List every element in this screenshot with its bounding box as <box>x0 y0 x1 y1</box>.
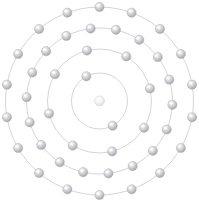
electron-shell-1-2 <box>108 121 117 130</box>
electron-shell-3-8 <box>55 158 64 167</box>
electron-shell-2-5 <box>107 147 116 156</box>
electron-shell-3-10 <box>104 169 113 178</box>
electron-shell-3-18 <box>111 25 120 34</box>
electron-shell-4-11 <box>127 185 136 194</box>
electron-shell-4-9 <box>63 185 72 194</box>
electron-shell-3-4 <box>28 68 37 77</box>
electron-shell-3-2 <box>62 31 71 40</box>
electron-shell-3-5 <box>22 93 31 102</box>
electron-shell-3-1 <box>86 24 95 33</box>
electron-shell-3-17 <box>135 35 144 44</box>
electron-shell-3-6 <box>25 118 34 127</box>
electron-shell-4-18 <box>127 8 136 17</box>
electron-shell-2-3 <box>44 109 53 118</box>
electron-shell-4-6 <box>2 113 11 122</box>
nucleus-sphere <box>95 96 105 106</box>
electron-shell-4-7 <box>13 143 22 152</box>
electron-shell-4-4 <box>13 49 22 58</box>
electron-shell-2-2 <box>50 70 59 79</box>
electron-shell-3-9 <box>78 168 87 177</box>
electron-shell-3-11 <box>128 161 137 170</box>
atom-svg-canvas <box>0 0 199 206</box>
electron-shell-4-2 <box>63 8 72 17</box>
electron-shell-3-15 <box>165 75 174 84</box>
electron-shell-4-3 <box>34 24 43 33</box>
electron-shell-4-8 <box>34 168 43 177</box>
electron-shell-3-3 <box>42 47 51 56</box>
electron-shell-4-10 <box>95 190 104 199</box>
electron-shell-2-6 <box>139 123 148 132</box>
electron-shell-4-1 <box>95 2 104 11</box>
electron-shell-3-14 <box>168 100 177 109</box>
electron-shell-4-5 <box>2 80 11 89</box>
electron-shell-3-12 <box>148 146 157 155</box>
electron-shell-2-1 <box>82 46 91 55</box>
electron-shell-4-15 <box>187 80 196 89</box>
electron-shell-3-16 <box>153 52 162 61</box>
electron-shell-3-13 <box>162 125 171 134</box>
electron-shell-4-14 <box>187 113 196 122</box>
electron-shell-2-7 <box>145 84 154 93</box>
electron-shell-2-8 <box>122 52 131 61</box>
electron-shell-4-17 <box>155 24 164 33</box>
electron-shell-3-7 <box>37 140 46 149</box>
electron-shell-1-1 <box>82 72 91 81</box>
electron-shell-2-4 <box>68 141 77 150</box>
nucleus <box>95 96 105 106</box>
electron-shell-4-13 <box>176 143 185 152</box>
electron-shell-4-12 <box>155 168 164 177</box>
electron-shell-4-16 <box>176 49 185 58</box>
bohr-atom-diagram <box>0 0 199 206</box>
